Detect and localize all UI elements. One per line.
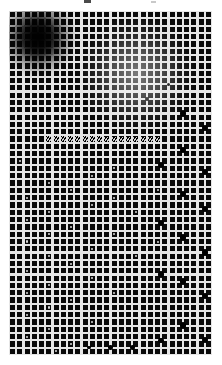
grid-square — [105, 79, 108, 82]
grid-square — [68, 27, 73, 32]
grid-square — [61, 78, 66, 83]
grid-square — [199, 276, 204, 281]
grid-square — [148, 297, 153, 302]
grid-square — [105, 86, 109, 90]
grid-square — [61, 27, 66, 32]
grid-square — [97, 202, 102, 207]
grid-square — [133, 129, 138, 134]
grid-square — [68, 276, 73, 281]
striped-cell — [133, 137, 138, 142]
grid-square — [177, 290, 182, 295]
grid-square — [105, 34, 110, 39]
grid-square — [46, 93, 51, 98]
grid-square — [10, 232, 15, 237]
grid-square — [119, 268, 124, 273]
grid-square — [54, 144, 59, 149]
grid-square — [141, 327, 146, 332]
grid-square — [17, 261, 22, 266]
grid-square — [25, 254, 30, 259]
grid-square — [148, 232, 153, 237]
grid-square — [97, 254, 102, 259]
cell-white-dot — [26, 219, 28, 221]
grid-square — [134, 101, 137, 104]
grid-square — [39, 254, 44, 259]
grid-square — [17, 166, 22, 171]
grid-square — [177, 224, 182, 229]
grid-square — [184, 136, 189, 141]
grid-square — [170, 129, 175, 134]
grid-square — [68, 232, 73, 237]
grid-square — [141, 276, 146, 281]
grid-square — [104, 210, 109, 215]
grid-square — [75, 158, 80, 163]
grid-square — [135, 87, 137, 89]
intersection-node — [167, 83, 170, 86]
striped-cell — [68, 136, 73, 141]
grid-square — [83, 166, 88, 171]
grid-square — [112, 297, 117, 302]
grid-square — [155, 12, 160, 17]
grid-square — [148, 246, 153, 251]
grid-square — [199, 151, 204, 156]
grid-square — [206, 312, 211, 317]
grid-square — [25, 12, 30, 17]
grid-square — [119, 210, 124, 215]
grid-square — [25, 56, 30, 61]
grid-square — [113, 79, 116, 82]
grid-square — [46, 122, 51, 127]
grid-square — [119, 232, 124, 237]
grid-square — [133, 312, 138, 317]
grid-square — [32, 202, 37, 207]
grid-square — [142, 94, 145, 97]
grid-square — [206, 12, 211, 17]
cell-white-dot — [26, 336, 28, 338]
grid-square — [97, 195, 102, 200]
grid-square — [113, 72, 116, 75]
grid-square — [32, 34, 37, 39]
grid-square — [148, 283, 153, 288]
grid-square — [112, 319, 117, 324]
grid-square — [112, 42, 116, 46]
grid-square — [135, 50, 138, 53]
grid-square — [32, 349, 37, 354]
grid-square — [155, 319, 160, 324]
grid-square — [83, 122, 88, 127]
grid-square — [25, 327, 30, 332]
grid-square — [199, 239, 204, 244]
gridline-h — [45, 354, 52, 355]
grid-square — [32, 312, 37, 317]
grid-square — [191, 166, 196, 171]
grid-square — [46, 349, 51, 354]
grid-square — [61, 297, 66, 302]
grid-square — [119, 349, 124, 354]
grid-square — [46, 49, 51, 54]
grid-square — [75, 276, 80, 281]
grid-square — [10, 349, 15, 354]
grid-square — [148, 108, 152, 112]
grid-square — [97, 166, 102, 171]
grid-square — [32, 319, 37, 324]
grid-square — [206, 180, 211, 185]
grid-square — [177, 312, 182, 317]
grid-square — [10, 93, 15, 98]
grid-square — [191, 49, 196, 54]
grid-square — [162, 232, 167, 237]
grid-square — [46, 334, 51, 339]
grid-square — [156, 86, 159, 89]
grid-square — [90, 224, 95, 229]
grid-square — [61, 210, 66, 215]
grid-square — [61, 34, 66, 39]
grid-square — [10, 34, 15, 39]
grid-square — [75, 268, 80, 273]
grid-square — [90, 71, 94, 75]
grid-square — [104, 319, 109, 324]
grid-square — [90, 129, 95, 134]
grid-square — [75, 49, 80, 54]
grid-square — [68, 78, 73, 83]
grid-square — [10, 210, 15, 215]
grid-square — [177, 12, 182, 17]
grid-square — [141, 129, 146, 134]
grid-square — [162, 12, 167, 17]
grid-square — [199, 27, 204, 32]
grid-square — [17, 19, 22, 24]
